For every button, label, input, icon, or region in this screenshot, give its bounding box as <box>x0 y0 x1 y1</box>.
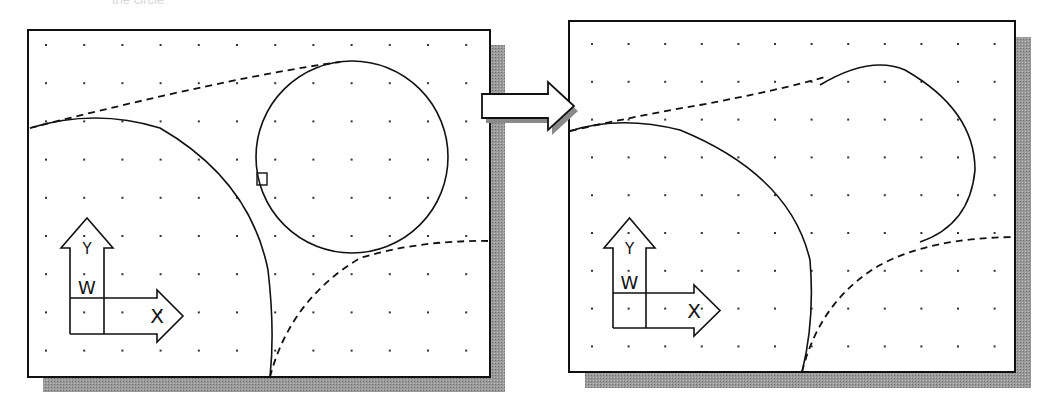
ucs-y-label: Y <box>81 240 92 258</box>
ucs-w-label: W <box>78 277 96 298</box>
ucs-w-label: W <box>621 272 639 293</box>
ucs-y-label: Y <box>624 240 635 258</box>
ucs-x-label: X <box>150 304 164 328</box>
drawing-area[interactable] <box>569 21 1015 372</box>
trim-diagram: YWXYWX <box>0 0 1048 404</box>
panel-before: YWX <box>28 30 505 392</box>
panel-after: YWX <box>569 21 1031 388</box>
drawing-area[interactable] <box>28 30 490 377</box>
ucs-x-label: X <box>687 299 701 323</box>
